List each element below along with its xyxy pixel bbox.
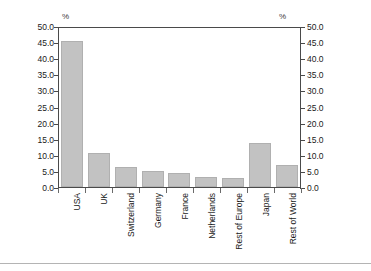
y-axis-unit-right: % <box>279 12 286 21</box>
y-tick-label-right: 20.0 <box>307 120 353 129</box>
y-tick-label-right: 35.0 <box>307 71 353 80</box>
x-tickmark <box>301 188 302 193</box>
bar-chart-figure: % % 50.045.040.035.030.025.020.015.010.0… <box>0 0 371 271</box>
bar <box>222 178 244 187</box>
x-label-slot: USA <box>58 193 85 263</box>
y-tick-label-left: 30.0 <box>8 87 54 96</box>
bar <box>276 165 298 187</box>
y-tickmark-right <box>300 43 305 44</box>
y-tick-label-right: 30.0 <box>307 87 353 96</box>
y-tick-label-right: 0.0 <box>307 184 353 193</box>
x-axis-category-labels: USAUKSwitzerlandGermanyFranceNetherlands… <box>58 193 301 263</box>
y-tickmark-right <box>300 75 305 76</box>
x-axis-label: Germany <box>153 193 163 228</box>
x-label-slot: Japan <box>247 193 274 263</box>
x-axis-label: USA <box>72 193 82 210</box>
y-tick-label-right: 40.0 <box>307 55 353 64</box>
x-axis-label: Netherlands <box>207 193 217 239</box>
bar-slot <box>59 28 86 187</box>
bar-series <box>59 28 300 187</box>
bar <box>168 173 190 187</box>
x-axis-label: France <box>180 193 190 219</box>
y-tick-label-left: 20.0 <box>8 120 54 129</box>
bar <box>115 167 137 187</box>
y-tickmark-right <box>300 91 305 92</box>
y-axis-left-ticks: 50.045.040.035.030.025.020.015.010.05.00… <box>8 27 54 188</box>
x-label-slot: UK <box>85 193 112 263</box>
x-axis-label: Rest of World <box>288 193 298 244</box>
y-tickmark-right <box>300 172 305 173</box>
y-tickmark-right <box>300 27 305 28</box>
y-tick-label-right: 25.0 <box>307 104 353 113</box>
x-label-slot: Rest of World <box>274 193 301 263</box>
bar <box>249 143 271 187</box>
y-tick-label-right: 15.0 <box>307 136 353 145</box>
y-tick-label-left: 10.0 <box>8 152 54 161</box>
y-tick-label-left: 35.0 <box>8 71 54 80</box>
y-tickmark-right <box>300 140 305 141</box>
bottom-divider <box>0 263 371 264</box>
y-tickmark-right <box>300 108 305 109</box>
x-axis-label: Rest of Europe <box>234 193 244 250</box>
y-tick-label-right: 5.0 <box>307 168 353 177</box>
bar-slot <box>139 28 166 187</box>
bar <box>88 153 110 187</box>
x-label-slot: Switzerland <box>112 193 139 263</box>
bar-slot <box>220 28 247 187</box>
y-tick-label-left: 50.0 <box>8 23 54 32</box>
bar-slot <box>86 28 113 187</box>
x-axis-label: Japan <box>261 193 271 216</box>
y-tickmark-right <box>300 59 305 60</box>
y-tick-label-left: 5.0 <box>8 168 54 177</box>
y-tick-label-left: 15.0 <box>8 136 54 145</box>
bar <box>195 177 217 187</box>
y-tick-label-left: 45.0 <box>8 39 54 48</box>
y-tick-label-right: 10.0 <box>307 152 353 161</box>
y-tickmark-right <box>300 124 305 125</box>
y-tickmark-right <box>300 156 305 157</box>
y-tick-label-right: 45.0 <box>307 39 353 48</box>
y-tick-label-left: 25.0 <box>8 104 54 113</box>
bar <box>142 171 164 187</box>
x-axis-label: Switzerland <box>126 193 136 237</box>
y-tick-label-left: 40.0 <box>8 55 54 64</box>
x-label-slot: Germany <box>139 193 166 263</box>
x-label-slot: Netherlands <box>193 193 220 263</box>
bar-slot <box>273 28 300 187</box>
x-label-slot: Rest of Europe <box>220 193 247 263</box>
bar-slot <box>193 28 220 187</box>
bar-slot <box>166 28 193 187</box>
x-label-slot: France <box>166 193 193 263</box>
y-axis-unit-left: % <box>62 12 69 21</box>
y-axis-right-ticks: 50.045.040.035.030.025.020.015.010.05.00… <box>307 27 353 188</box>
bar-slot <box>246 28 273 187</box>
bar-slot <box>113 28 140 187</box>
x-axis-label: UK <box>99 193 109 205</box>
bar <box>61 41 83 187</box>
chart-title <box>0 0 371 3</box>
y-tick-label-right: 50.0 <box>307 23 353 32</box>
y-tick-label-left: 0.0 <box>8 184 54 193</box>
